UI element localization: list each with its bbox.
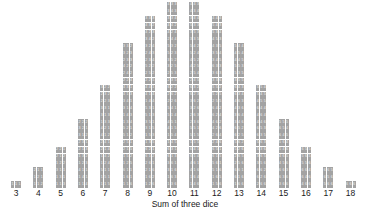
outcome-cell: 532	[167, 43, 177, 50]
outcome-cell: 165	[212, 174, 222, 181]
outcome-cell: 523	[167, 50, 177, 57]
outcome-cell: 512	[123, 133, 133, 140]
x-tick-label-15: 15	[273, 188, 295, 198]
outcome-cell: 221	[56, 147, 66, 154]
die-face: 2	[174, 85, 177, 92]
outcome-cell: 431	[123, 85, 133, 92]
die-face: 6	[219, 78, 222, 85]
die-face: 1	[174, 119, 177, 126]
outcome-cell: 524	[189, 50, 199, 57]
outcome-cell: 213	[78, 147, 88, 154]
outcome-cell: 445	[234, 57, 244, 64]
outcome-cell: 125	[123, 160, 133, 167]
die-face: 6	[241, 174, 244, 181]
outcome-cell: 231	[78, 140, 88, 147]
die-face: 5	[219, 154, 222, 161]
die-face: 2	[152, 36, 155, 43]
die-face: 5	[174, 64, 177, 71]
outcome-cell: 533	[189, 23, 199, 30]
column-sum-11: 1461644164616146411555155512362633263626…	[189, 2, 199, 188]
outcome-cell: 343	[167, 9, 177, 16]
outcome-cell: 216	[145, 167, 155, 174]
x-tick-label-14: 14	[250, 188, 272, 198]
outcome-cell: 153	[145, 133, 155, 140]
outcome-cell: 521	[123, 126, 133, 133]
die-face: 4	[286, 126, 289, 133]
column-sum-10: 1361633163616136311451544154515145412262…	[167, 2, 177, 188]
die-face: 5	[152, 78, 155, 85]
column-sum-14: 2666266623563655365636356534464646444555…	[256, 85, 266, 188]
die-face: 4	[174, 133, 177, 140]
die-face: 6	[263, 174, 266, 181]
die-face: 4	[196, 50, 199, 57]
die-face: 5	[241, 57, 244, 64]
outcome-cell: 342	[145, 36, 155, 43]
die-face: 5	[308, 154, 311, 161]
die-face: 2	[85, 154, 88, 161]
outcome-cell: 642	[212, 105, 222, 112]
outcome-cell: 614	[189, 154, 199, 161]
outcome-cell: 335	[189, 36, 199, 43]
column-sum-7: 1151515111241422142414124211333133312232…	[100, 85, 110, 188]
die-face: 5	[263, 154, 266, 161]
die-face: 5	[241, 78, 244, 85]
die-face: 4	[263, 105, 266, 112]
outcome-cell: 135	[145, 140, 155, 147]
die-face: 3	[241, 85, 244, 92]
outcome-cell: 432	[145, 23, 155, 30]
outcome-cell: 333	[145, 16, 155, 23]
outcome-cell: 111	[11, 181, 21, 188]
die-face: 2	[107, 92, 110, 99]
x-tick-label-8: 8	[117, 188, 139, 198]
outcome-cell: 425	[189, 64, 199, 71]
die-face: 5	[196, 133, 199, 140]
outcome-cell: 615	[212, 154, 222, 161]
outcome-cell: 154	[167, 133, 177, 140]
outcome-cell: 531	[145, 105, 155, 112]
outcome-cell: 542	[189, 43, 199, 50]
die-face: 2	[63, 154, 66, 161]
die-face: 6	[196, 167, 199, 174]
outcome-cell: 313	[100, 112, 110, 119]
die-face: 1	[174, 105, 177, 112]
die-face: 3	[196, 23, 199, 30]
outcome-cell: 334	[167, 16, 177, 23]
die-face: 6	[263, 147, 266, 154]
die-face: 6	[241, 147, 244, 154]
outcome-cell: 234	[145, 57, 155, 64]
die-face: 1	[130, 85, 133, 92]
die-face: 4	[196, 9, 199, 16]
outcome-cell: 114	[78, 181, 88, 188]
die-face: 2	[196, 98, 199, 105]
die-face: 2	[63, 160, 66, 167]
outcome-cell: 633	[212, 64, 222, 71]
die-face: 3	[174, 154, 177, 161]
die-face: 5	[196, 36, 199, 43]
x-tick-label-4: 4	[27, 188, 49, 198]
x-tick-label-13: 13	[228, 188, 250, 198]
column-sum-5: 113131311122212221	[56, 147, 66, 188]
outcome-cell: 251	[123, 140, 133, 147]
outcome-cell: 641	[189, 147, 199, 154]
column-sum-12: 1561655165616156512462644264626246422555…	[212, 16, 222, 188]
die-face: 6	[286, 181, 289, 188]
outcome-cell: 112	[33, 181, 43, 188]
die-face: 3	[107, 119, 110, 126]
outcome-cell: 515	[189, 133, 199, 140]
die-face: 1	[152, 119, 155, 126]
die-face: 5	[263, 98, 266, 105]
outcome-cell: 621	[145, 147, 155, 154]
die-face: 6	[174, 181, 177, 188]
outcome-cell: 634	[234, 92, 244, 99]
die-face: 3	[174, 2, 177, 9]
outcome-cell: 252	[145, 71, 155, 78]
outcome-cell: 141	[78, 174, 88, 181]
outcome-cell: 426	[212, 126, 222, 133]
die-face: 4	[174, 30, 177, 37]
die-face: 1	[174, 147, 177, 154]
outcome-cell: 361	[167, 160, 177, 167]
die-face: 4	[219, 50, 222, 57]
outcome-cell: 546	[279, 147, 289, 154]
outcome-cell: 644	[256, 105, 266, 112]
outcome-cell: 352	[167, 57, 177, 64]
